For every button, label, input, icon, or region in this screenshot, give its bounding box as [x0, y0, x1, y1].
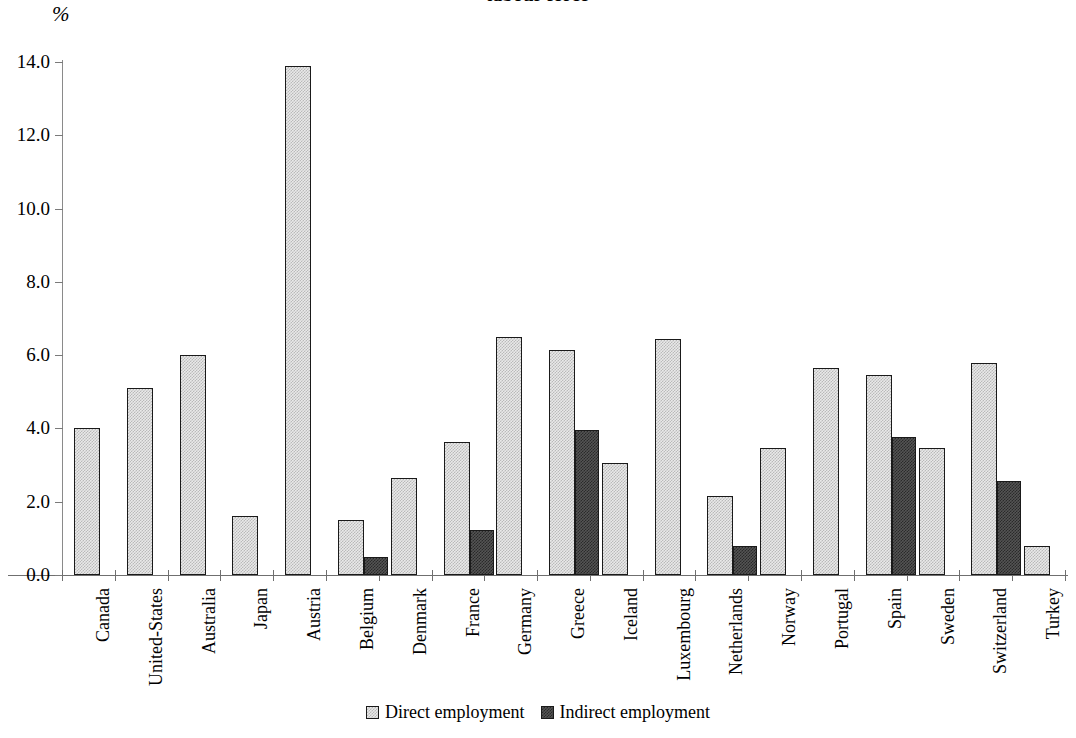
x-axis-tick — [801, 570, 802, 581]
x-axis-label-portugal: Portugal — [833, 588, 851, 649]
x-axis-label-iceland: Iceland — [622, 588, 640, 641]
y-axis-tick — [55, 62, 63, 63]
y-axis-tick-label: 0.0 — [0, 565, 50, 584]
x-axis-tick — [220, 570, 221, 581]
bar-direct-belgium — [338, 520, 364, 575]
bar-indirect-netherlands — [733, 546, 757, 575]
x-axis-tick — [168, 570, 169, 581]
y-axis-line — [62, 60, 63, 577]
bar-direct-germany — [496, 337, 522, 575]
bar-indirect-greece — [575, 430, 599, 575]
bar-direct-austria — [285, 66, 311, 575]
legend-item-direct: Direct employment — [366, 702, 524, 723]
x-axis-label-germany: Germany — [516, 588, 534, 655]
bar-indirect-france — [470, 530, 494, 575]
x-axis-tick — [537, 570, 538, 581]
bar-direct-canada — [74, 428, 100, 575]
y-axis-tick-label: 10.0 — [0, 199, 50, 218]
legend-label: Indirect employment — [560, 702, 710, 723]
bar-indirect-spain — [892, 437, 916, 575]
x-axis-label-greece: Greece — [569, 588, 587, 639]
x-axis-label-netherlands: Netherlands — [727, 588, 745, 675]
bar-direct-australia — [180, 355, 206, 575]
bar-direct-norway — [760, 448, 786, 575]
bar-direct-france — [444, 442, 470, 575]
x-axis-label-luxembourg: Luxembourg — [675, 588, 693, 681]
x-axis-line — [8, 575, 1068, 576]
y-axis-tick-label: 2.0 — [0, 492, 50, 511]
x-axis-tick — [643, 570, 644, 581]
bar-direct-united-states — [127, 388, 153, 575]
bar-direct-sweden — [919, 448, 945, 575]
bar-direct-netherlands — [707, 496, 733, 575]
x-axis-label-united-states: United-States — [147, 588, 165, 686]
x-axis-tick — [326, 570, 327, 581]
chart-title: labour force — [0, 0, 1076, 6]
bar-direct-spain — [866, 375, 892, 575]
y-axis-tick — [55, 355, 63, 356]
legend-item-indirect: Indirect employment — [541, 702, 710, 723]
bar-direct-japan — [232, 516, 258, 575]
x-axis-label-sweden: Sweden — [939, 588, 957, 645]
bar-direct-denmark — [391, 478, 417, 575]
y-axis-tick-label: 14.0 — [0, 52, 50, 71]
legend-swatch-indirect-icon — [541, 706, 554, 719]
x-axis-label-turkey: Turkey — [1044, 588, 1062, 639]
x-axis-label-australia: Australia — [200, 588, 218, 654]
y-axis-tick — [55, 135, 63, 136]
x-axis-label-canada: Canada — [94, 588, 112, 642]
bar-direct-luxembourg — [655, 339, 681, 575]
x-axis-tick — [854, 570, 855, 581]
y-axis-tick-label: 12.0 — [0, 125, 50, 144]
x-axis-tick — [432, 570, 433, 581]
x-axis-label-spain: Spain — [886, 588, 904, 629]
legend-swatch-direct-icon — [366, 706, 379, 719]
y-axis-tick-label: 4.0 — [0, 418, 50, 437]
x-axis-label-japan: Japan — [252, 588, 270, 629]
bar-indirect-belgium — [364, 557, 388, 575]
chart-title-line-2: labour force — [0, 0, 1076, 6]
x-axis-label-france: France — [464, 588, 482, 637]
x-axis-tick — [115, 570, 116, 581]
x-axis-label-switzerland: Switzerland — [991, 588, 1009, 674]
x-axis-label-denmark: Denmark — [411, 588, 429, 655]
x-axis-tick — [1065, 570, 1066, 581]
x-axis-label-norway: Norway — [780, 588, 798, 646]
bar-direct-iceland — [602, 463, 628, 575]
y-axis-tick-label: 6.0 — [0, 345, 50, 364]
y-axis-tick — [55, 209, 63, 210]
x-axis-tick — [959, 570, 960, 581]
x-axis-tick — [273, 570, 274, 581]
y-axis-tick — [55, 428, 63, 429]
bar-direct-turkey — [1024, 546, 1050, 575]
legend-label: Direct employment — [385, 702, 524, 723]
y-axis-tick — [55, 502, 63, 503]
x-axis-label-austria: Austria — [305, 588, 323, 641]
bar-direct-greece — [549, 350, 575, 575]
chart-legend: Direct employmentIndirect employment — [0, 702, 1076, 723]
y-axis-unit-label: % — [52, 2, 70, 27]
x-axis-tick — [695, 570, 696, 581]
y-axis-tick — [55, 282, 63, 283]
x-axis-label-belgium: Belgium — [358, 588, 376, 650]
bar-direct-switzerland — [971, 363, 997, 575]
x-axis-tick — [62, 570, 63, 581]
bar-direct-portugal — [813, 368, 839, 575]
bar-indirect-switzerland — [997, 481, 1021, 575]
y-axis-tick-label: 8.0 — [0, 272, 50, 291]
